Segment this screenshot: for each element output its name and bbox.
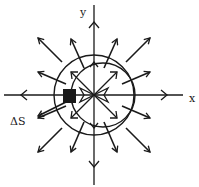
arrow-nw-outer [38,38,62,62]
arrow-ne-outer [126,38,150,62]
arrow-ssw [71,122,84,152]
surface-normal-arrow [38,101,68,116]
surface-element-square [63,89,76,103]
arrow-se-outer [126,128,150,152]
arrow-nnw [71,39,84,68]
arrow-wsw [38,106,66,118]
arrow-wnw [38,72,66,84]
delta-s-label: ΔS [10,115,25,128]
y-axis-label: y [79,6,87,19]
arrow-sw-outer [38,128,62,152]
radial-field-diagram: y x ΔS [0,0,199,187]
x-axis-label: x [189,92,196,105]
